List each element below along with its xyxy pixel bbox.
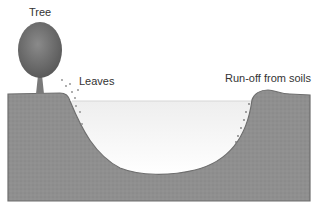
tree-icon xyxy=(18,22,62,94)
leaves-label: Leaves xyxy=(79,75,114,87)
tree-label: Tree xyxy=(29,6,51,18)
lake-cross-section xyxy=(0,0,317,217)
runoff-label: Run-off from soils xyxy=(225,72,311,84)
